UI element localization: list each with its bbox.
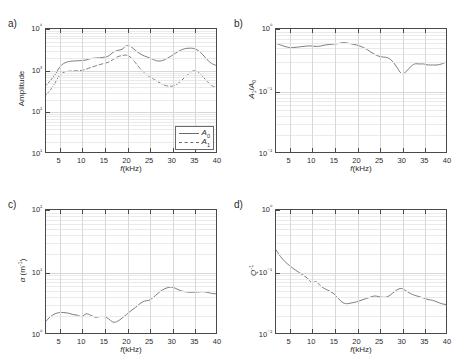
- gridline-major-y: [46, 112, 216, 113]
- xtick-label: 10: [307, 156, 315, 165]
- xtick-mark-top: [403, 29, 404, 33]
- ytick-mark: [46, 112, 50, 113]
- gridline-minor-y: [46, 286, 216, 287]
- gridline-minor-y: [46, 291, 216, 292]
- xtick-label: 20: [352, 337, 360, 346]
- ytick-label: 10⁻¹: [249, 85, 272, 96]
- ytick-mark: [276, 273, 280, 274]
- ytick-label: 10²: [19, 204, 42, 215]
- ytick-label: 10⁻²: [249, 329, 272, 340]
- gridline-major-x: [173, 210, 174, 333]
- gridline-minor-y: [46, 83, 216, 84]
- xtick-label: 35: [420, 337, 428, 346]
- gridline-minor-y: [46, 279, 216, 280]
- xtick-mark-top: [380, 210, 381, 214]
- gridline-minor-y: [276, 305, 446, 306]
- series-line-qinv: [276, 250, 446, 305]
- gridline-minor-y: [276, 62, 446, 63]
- gridline-minor-y: [276, 135, 446, 136]
- xtick-mark-top: [82, 210, 83, 214]
- xtick-label: 10: [77, 337, 85, 346]
- gridline-minor-y: [276, 213, 446, 214]
- ytick-mark: [46, 210, 50, 211]
- xtick-mark: [173, 148, 174, 152]
- xtick-label: 5: [286, 337, 290, 346]
- xtick-mark-top: [312, 29, 313, 33]
- gridline-major-x: [82, 210, 83, 333]
- gridline-major-x: [380, 29, 381, 152]
- ytick-mark: [46, 29, 50, 30]
- xtick-mark-top: [335, 29, 336, 33]
- xtick-mark: [150, 329, 151, 333]
- panel-a: a) Amplitude A0A1 Amplitude f(kHz) 10¹10…: [0, 0, 229, 182]
- xtick-mark-top: [60, 29, 61, 33]
- gridline-minor-y: [46, 31, 216, 32]
- ytick-label: 10¹: [19, 148, 42, 159]
- gridline-minor-y: [46, 282, 216, 283]
- xtick-mark: [312, 148, 313, 152]
- xtick-mark-top: [105, 29, 106, 33]
- gridline-major-y: [276, 92, 446, 93]
- xtick-label: 15: [330, 337, 338, 346]
- gridline-minor-y: [276, 254, 446, 255]
- xtick-label: 5: [286, 156, 290, 165]
- gridline-minor-y: [276, 35, 446, 36]
- gridline-minor-y: [46, 216, 216, 217]
- xtick-mark-top: [335, 210, 336, 214]
- ytick-mark: [276, 92, 280, 93]
- xtick-label: 15: [100, 156, 108, 165]
- ytick-label: 10⁰: [249, 23, 272, 34]
- xtick-mark: [195, 329, 196, 333]
- xtick-mark-top: [173, 210, 174, 214]
- xtick-mark: [290, 329, 291, 333]
- ytick-mark: [276, 210, 280, 211]
- legend[interactable]: A0A1: [175, 126, 214, 150]
- gridline-major-x: [150, 210, 151, 333]
- gridline-minor-y: [46, 33, 216, 34]
- xtick-mark: [60, 148, 61, 152]
- gridline-minor-y: [46, 235, 216, 236]
- xtick-label: 20: [352, 156, 360, 165]
- xtick-mark-top: [290, 29, 291, 33]
- gridline-major-x: [312, 29, 313, 152]
- ytick-label: 10³: [19, 64, 42, 75]
- gridline-minor-y: [46, 224, 216, 225]
- legend-label: A1: [202, 137, 210, 148]
- gridline-minor-y: [46, 100, 216, 101]
- xtick-mark: [82, 148, 83, 152]
- gridline-minor-y: [46, 93, 216, 94]
- panel-c-axes: Attenuation: [45, 209, 217, 334]
- gridline-minor-y: [46, 116, 216, 117]
- gridline-minor-y: [276, 220, 446, 221]
- gridline-minor-y: [276, 101, 446, 102]
- xtick-label: 20: [122, 337, 130, 346]
- gridline-minor-y: [276, 98, 446, 99]
- xtick-label: 30: [398, 156, 406, 165]
- gridline-minor-y: [46, 87, 216, 88]
- gridline-minor-y: [46, 316, 216, 317]
- xtick-mark: [335, 329, 336, 333]
- xtick-mark: [358, 329, 359, 333]
- xtick-mark-top: [128, 29, 129, 33]
- xtick-label: 40: [213, 156, 221, 165]
- xtick-mark-top: [195, 29, 196, 33]
- gridline-minor-y: [46, 213, 216, 214]
- panel-b-xlabel: f(kHz): [275, 164, 447, 173]
- panel-c-xlabel: f(kHz): [45, 345, 217, 354]
- gridline-major-x: [173, 29, 174, 152]
- gridline-major-x: [335, 29, 336, 152]
- ytick-label: 10⁻²: [249, 148, 272, 159]
- xtick-label: 30: [398, 337, 406, 346]
- xtick-mark: [403, 329, 404, 333]
- gridline-minor-y: [276, 224, 446, 225]
- gridline-minor-y: [46, 38, 216, 39]
- xtick-mark: [82, 329, 83, 333]
- xtick-mark-top: [150, 210, 151, 214]
- gridline-major-x: [150, 29, 151, 152]
- xtick-mark: [425, 329, 426, 333]
- xtick-mark: [128, 148, 129, 152]
- xtick-label: 25: [375, 156, 383, 165]
- xtick-mark-top: [380, 29, 381, 33]
- legend-swatch-dashed: [179, 142, 199, 143]
- ytick-label: 10⁴: [19, 23, 42, 34]
